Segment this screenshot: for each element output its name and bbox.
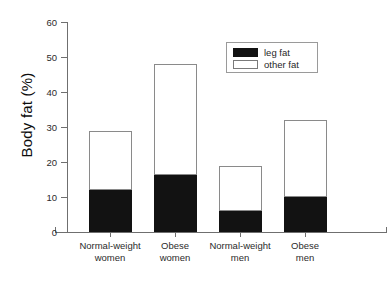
y-tick-40 xyxy=(61,92,67,93)
segment-leg-fat xyxy=(219,211,262,232)
bar-normal-weight-men xyxy=(219,166,262,233)
x-tick-4 xyxy=(305,232,306,237)
y-tick-label-0: 0 xyxy=(31,227,57,238)
y-tick-20 xyxy=(61,162,67,163)
segment-other-fat xyxy=(284,120,327,197)
x-tick-1 xyxy=(110,232,111,237)
x-tick-2 xyxy=(175,232,176,237)
legend-label-leg-fat: leg fat xyxy=(264,47,290,58)
legend-item-leg-fat: leg fat xyxy=(233,47,290,58)
y-tick-label-50: 50 xyxy=(31,52,57,63)
y-tick-50 xyxy=(61,57,67,58)
legend-item-other-fat: other fat xyxy=(233,59,299,70)
segment-other-fat xyxy=(89,131,132,191)
segment-other-fat xyxy=(154,64,197,175)
bar-normal-weight-women xyxy=(89,131,132,233)
bar-obese-women xyxy=(154,64,197,232)
y-tick-label-30: 30 xyxy=(31,122,57,133)
y-tick-label-20: 20 xyxy=(31,157,57,168)
chart-legend: leg fat other fat xyxy=(226,42,318,73)
segment-other-fat xyxy=(219,166,262,212)
y-tick-label-10: 10 xyxy=(31,192,57,203)
segment-leg-fat xyxy=(154,175,197,232)
x-tick-label-line-2: men xyxy=(265,252,345,264)
y-tick-30 xyxy=(61,127,67,128)
y-tick-label-60: 60 xyxy=(31,17,57,28)
y-tick-10 xyxy=(61,197,67,198)
legend-swatch-other-fat xyxy=(233,60,258,69)
legend-swatch-leg-fat xyxy=(233,48,258,57)
y-tick-label-40: 40 xyxy=(31,87,57,98)
y-axis-line xyxy=(67,22,68,233)
legend-label-other-fat: other fat xyxy=(264,59,299,70)
x-tick-3 xyxy=(240,232,241,237)
x-tick-label-line-1: Obese xyxy=(265,240,345,252)
bar-chart-figure: Body fat (%) 0 10 20 30 40 50 60 xyxy=(0,0,387,286)
x-tick-label-obese-men: Obese men xyxy=(265,240,345,264)
y-tick-0 xyxy=(61,232,67,233)
bar-obese-men xyxy=(284,120,327,232)
segment-leg-fat xyxy=(89,190,132,232)
y-tick-60 xyxy=(61,22,67,23)
segment-leg-fat xyxy=(284,197,327,232)
x-axis-line xyxy=(55,232,387,233)
